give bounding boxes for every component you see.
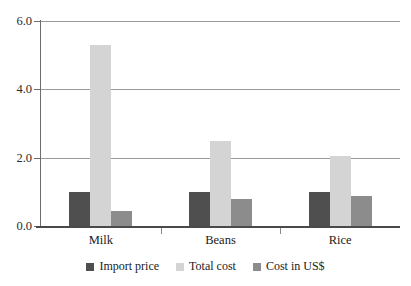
x-axis-category-label: Beans: [176, 233, 266, 247]
legend-item: Import price: [86, 260, 159, 273]
y-axis-tick-label: 0.0: [0, 220, 32, 233]
legend-swatch-icon: [176, 263, 184, 271]
legend-swatch-icon: [253, 263, 261, 271]
bar-chart: 0.02.04.06.0 MilkBeansRice Import priceT…: [0, 0, 411, 286]
x-axis-category-label: Rice: [295, 233, 385, 247]
y-axis-tick-label: 2.0: [0, 152, 32, 165]
bar: [231, 199, 252, 226]
bar: [189, 192, 210, 226]
chart-legend: Import priceTotal costCost in US$: [0, 260, 411, 273]
legend-label: Cost in US$: [266, 260, 325, 273]
bar: [69, 192, 90, 226]
x-axis-line: [36, 226, 400, 228]
bar: [90, 45, 111, 226]
legend-label: Total cost: [189, 260, 236, 273]
x-axis-category-label: Milk: [56, 233, 146, 247]
legend-item: Total cost: [176, 260, 236, 273]
legend-label: Import price: [99, 260, 159, 273]
bar: [111, 211, 132, 226]
x-axis-tick: [161, 228, 162, 234]
bar: [210, 141, 231, 226]
legend-swatch-icon: [86, 263, 94, 271]
y-axis-tick-label: 6.0: [0, 15, 32, 28]
bar: [309, 192, 330, 226]
bar: [330, 156, 351, 226]
legend-item: Cost in US$: [253, 260, 325, 273]
bar: [351, 196, 372, 226]
plot-area: [41, 21, 400, 226]
x-axis-tick: [280, 228, 281, 234]
gridline: [41, 21, 400, 22]
y-axis-tick-label: 4.0: [0, 83, 32, 96]
